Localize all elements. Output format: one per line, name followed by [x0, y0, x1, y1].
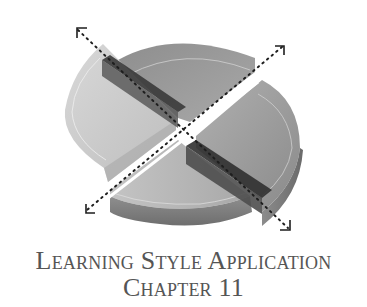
chapter-caption: Learning Style Application Chapter 11: [0, 247, 367, 301]
quadrant-disc-icon: [0, 0, 367, 245]
quadrant-disc-illustration: [0, 0, 367, 245]
caption-title: Learning Style Application: [0, 247, 367, 274]
caption-chapter: Chapter 11: [0, 274, 367, 301]
